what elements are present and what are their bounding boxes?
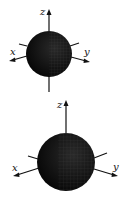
sphere-diagram-2: z x y bbox=[0, 98, 131, 202]
z-axis-label: z bbox=[56, 99, 63, 110]
y-axis bbox=[71, 57, 86, 61]
x-axis-back bbox=[19, 44, 27, 46]
x-axis-label: x bbox=[12, 162, 18, 173]
y-arrow-icon bbox=[84, 59, 91, 64]
x-arrow-icon bbox=[13, 173, 20, 178]
y-arrow-icon bbox=[112, 173, 119, 178]
x-arrow-icon bbox=[9, 58, 16, 63]
z-arrow-icon bbox=[47, 9, 52, 15]
y-axis-label: y bbox=[112, 161, 119, 172]
figure-small-sphere: z x y bbox=[0, 0, 131, 98]
figure-large-sphere: z x y bbox=[0, 98, 131, 202]
y-axis-back bbox=[94, 153, 107, 158]
y-axis-back bbox=[70, 43, 79, 46]
sphere-diagram-1: z x y bbox=[0, 0, 131, 98]
y-axis bbox=[94, 169, 114, 175]
x-axis bbox=[17, 168, 39, 175]
y-axis-label: y bbox=[83, 46, 90, 57]
x-axis-back bbox=[28, 156, 38, 159]
x-axis-label: x bbox=[10, 46, 16, 57]
z-axis-label: z bbox=[39, 6, 46, 17]
z-arrow-icon bbox=[64, 100, 69, 106]
